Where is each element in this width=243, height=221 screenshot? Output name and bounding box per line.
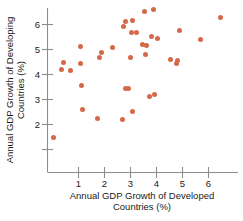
data-point xyxy=(152,92,157,97)
data-point xyxy=(95,116,100,121)
x-tick-label: 2 xyxy=(95,178,115,189)
y-axis-title-line2: Countries (%) xyxy=(15,10,26,170)
data-point xyxy=(121,24,126,29)
data-point xyxy=(198,37,203,42)
data-point xyxy=(134,30,139,35)
data-point xyxy=(142,9,147,14)
x-tick-label: 1 xyxy=(69,178,89,189)
data-point xyxy=(97,55,102,60)
data-point xyxy=(59,67,64,72)
data-point xyxy=(151,7,156,12)
data-point xyxy=(68,68,73,73)
x-tick-label: 6 xyxy=(199,178,219,189)
x-tick-label: 5 xyxy=(173,178,193,189)
data-point xyxy=(129,30,134,35)
x-axis-title: Annual GDP Growth of Developed Countries… xyxy=(52,190,232,212)
data-point xyxy=(110,45,115,50)
y-axis-title-wrapper: Annual GDP Growth of Developing Countrie… xyxy=(4,10,28,170)
data-point xyxy=(144,43,149,48)
data-point xyxy=(128,55,133,60)
data-point xyxy=(147,94,152,99)
x-axis-title-line2: Countries (%) xyxy=(52,201,232,212)
data-point xyxy=(78,44,83,49)
data-point xyxy=(61,60,66,65)
data-point xyxy=(130,109,135,114)
data-point xyxy=(80,107,85,112)
data-point xyxy=(123,19,128,24)
data-point xyxy=(168,57,173,62)
y-tick-label: 4 xyxy=(26,69,40,80)
data-point xyxy=(177,28,182,33)
x-tick-label: 3 xyxy=(121,178,141,189)
y-axis-title-line1: Annual GDP Growth of Developing xyxy=(4,10,15,170)
data-point xyxy=(149,34,154,39)
y-tick-label: 5 xyxy=(26,44,40,55)
y-axis-title: Annual GDP Growth of Developing Countrie… xyxy=(4,10,26,170)
scatter-chart: 123456 23456 Annual GDP Growth of Develo… xyxy=(0,0,243,221)
x-axis-title-line1: Annual GDP Growth of Developed xyxy=(52,190,232,201)
y-tick-label: 6 xyxy=(26,19,40,30)
y-tick-label: 2 xyxy=(26,119,40,130)
y-tick-label: 3 xyxy=(26,94,40,105)
data-point xyxy=(99,50,104,55)
data-point xyxy=(155,36,160,41)
x-tick-label: 4 xyxy=(147,178,167,189)
